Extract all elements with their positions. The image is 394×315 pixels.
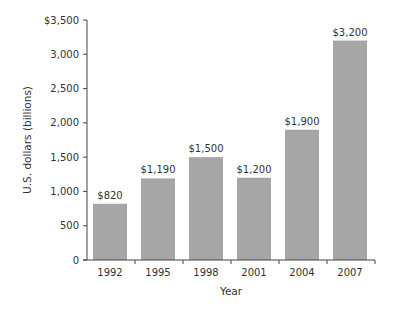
x-tick-label: 2004 xyxy=(289,267,314,278)
bar-value-label: $820 xyxy=(97,190,122,201)
x-tick-label: 2007 xyxy=(337,267,362,278)
x-tick-label: 1998 xyxy=(193,267,218,278)
bar-value-label: $3,200 xyxy=(333,27,368,38)
bar-value-label: $1,190 xyxy=(141,164,176,175)
y-tick-label: $3,500 xyxy=(44,15,79,26)
bars xyxy=(93,41,367,260)
y-tick-label: 500 xyxy=(60,220,79,231)
y-tick-label: 2,500 xyxy=(50,83,79,94)
y-axis-title: U.S. dollars (billions) xyxy=(21,86,33,194)
bar-2001 xyxy=(237,178,271,260)
y-tick-label: 3,000 xyxy=(50,49,79,60)
bar-value-label: $1,900 xyxy=(285,116,320,127)
x-axis-title: Year xyxy=(219,285,243,297)
x-tick-label: 2001 xyxy=(241,267,266,278)
bar-1995 xyxy=(141,178,175,260)
y-tick-label: 1,000 xyxy=(50,186,79,197)
y-tick-label: 1,500 xyxy=(50,152,79,163)
bar-1998 xyxy=(189,157,223,260)
y-axis: 05001,0001,5002,0002,5003,000$3,500 xyxy=(44,15,87,266)
bar-2007 xyxy=(333,41,367,260)
x-axis: 199219951998200120042007 xyxy=(83,260,375,278)
bar-value-labels: $820$1,190$1,500$1,200$1,900$3,200 xyxy=(97,27,367,201)
bar-chart: $820$1,190$1,500$1,200$1,900$3,200 05001… xyxy=(0,0,394,315)
bar-value-label: $1,500 xyxy=(189,143,224,154)
bar-2004 xyxy=(285,130,319,260)
y-tick-label: 0 xyxy=(73,255,79,266)
x-tick-label: 1995 xyxy=(145,267,170,278)
y-tick-label: 2,000 xyxy=(50,117,79,128)
x-tick-label: 1992 xyxy=(97,267,122,278)
bar-1992 xyxy=(93,204,127,260)
bar-value-label: $1,200 xyxy=(237,164,272,175)
